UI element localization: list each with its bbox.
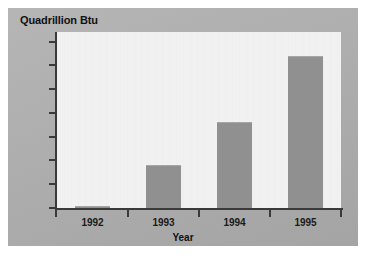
x-tick-mark — [269, 210, 271, 217]
y-tick-mark — [49, 183, 55, 185]
chart-figure: Quadrillion Btu 8283848586878889 1992199… — [0, 0, 366, 259]
y-tick-mark — [49, 207, 55, 209]
x-tick-mark — [55, 210, 57, 217]
y-tick-mark — [49, 112, 55, 114]
y-tick-mark — [49, 64, 55, 66]
x-tick-mark — [198, 210, 200, 217]
x-tick-label: 1994 — [223, 217, 245, 228]
chart-title: Quadrillion Btu — [20, 14, 98, 26]
x-axis-title: Year — [8, 232, 358, 243]
x-tick-mark — [340, 210, 342, 217]
x-tick-mark — [127, 210, 129, 217]
y-tick-mark — [49, 41, 55, 43]
y-tick-mark — [49, 136, 55, 138]
x-tick-label: 1993 — [152, 217, 174, 228]
y-tick-mark — [49, 88, 55, 90]
bar — [217, 122, 252, 208]
x-tick-label: 1995 — [294, 217, 316, 228]
y-axis-line — [55, 32, 57, 210]
chart-panel: Quadrillion Btu 8283848586878889 1992199… — [8, 8, 358, 246]
bar — [288, 56, 323, 208]
y-tick-mark — [49, 159, 55, 161]
bar — [146, 165, 181, 208]
x-tick-label: 1992 — [81, 217, 103, 228]
